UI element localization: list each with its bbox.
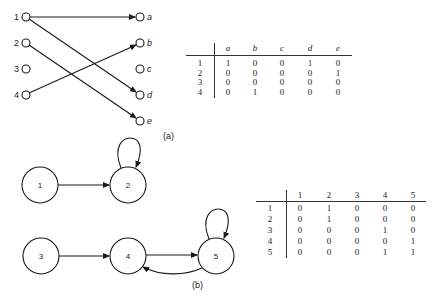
node-2-label: 2 <box>126 181 130 190</box>
table-a-cell: 0 <box>336 77 341 87</box>
caption-a: (a) <box>163 131 174 141</box>
node-right-a <box>136 13 144 21</box>
node-right-e <box>136 117 144 125</box>
table-a-cell: 0 <box>253 77 258 87</box>
node-left-4 <box>22 91 30 99</box>
table-a-row-label: 3 <box>198 77 203 87</box>
node-1-label: 1 <box>38 181 42 190</box>
table-a-cell: 0 <box>280 58 285 68</box>
node-left-1-label: 1 <box>14 12 19 22</box>
table-b-cell: 0 <box>327 225 332 235</box>
table-a-cell: 0 <box>336 87 341 97</box>
table-b-cell: 0 <box>355 214 360 224</box>
table-a-cell: 0 <box>308 87 313 97</box>
table-b-cell: 0 <box>383 214 388 224</box>
table-b-cell: 0 <box>298 236 303 246</box>
table-b-row-label: 2 <box>268 214 273 224</box>
edge-5-4 <box>143 267 202 274</box>
table-b-col-header: 4 <box>383 190 388 200</box>
table-b-row-rule <box>286 190 287 258</box>
node-left-2 <box>22 39 30 47</box>
table-a-col-header: d <box>308 43 313 53</box>
table-a-cell: 0 <box>226 77 231 87</box>
table-a-row-label: 1 <box>198 58 203 68</box>
node-left-3-label: 3 <box>14 64 19 74</box>
node-right-b-label: b <box>147 38 152 48</box>
table-b-cell: 1 <box>327 214 332 224</box>
table-a-col-header: b <box>253 43 258 53</box>
node-4-label: 4 <box>126 252 130 261</box>
node-left-2-label: 2 <box>14 38 19 48</box>
table-a-cell: 1 <box>253 87 258 97</box>
table-b-row-label: 4 <box>268 236 273 246</box>
table-b-cell: 0 <box>298 247 303 257</box>
table-b-row-label: 3 <box>268 225 273 235</box>
table-a-cell: 0 <box>226 87 231 97</box>
table-b-cell: 0 <box>355 203 360 213</box>
table-a-cell: 0 <box>253 58 258 68</box>
table-b-cell: 0 <box>411 203 416 213</box>
table-a-cell: 1 <box>226 58 231 68</box>
table-a-col-header: a <box>226 43 231 53</box>
table-b-header-rule <box>256 201 426 202</box>
table-b-cell: 0 <box>355 247 360 257</box>
table-b-col-header: 1 <box>298 190 303 200</box>
table-a-cell: 0 <box>308 77 313 87</box>
table-a-col-header: e <box>336 43 340 53</box>
table-b-row-label: 1 <box>268 203 273 213</box>
table-b-col-header: 3 <box>355 190 360 200</box>
table-b-cell: 0 <box>411 214 416 224</box>
table-a-cell: 1 <box>308 58 313 68</box>
self-loop-5 <box>206 209 228 239</box>
node-right-d <box>136 91 144 99</box>
table-a-row-label: 4 <box>198 87 203 97</box>
table-b-cell: 0 <box>411 225 416 235</box>
table-b-row-label: 5 <box>268 247 273 257</box>
table-a-cell: 0 <box>280 87 285 97</box>
table-b-cell: 1 <box>383 225 388 235</box>
table-b-cell: 0 <box>298 225 303 235</box>
node-left-3 <box>22 65 30 73</box>
table-b-col-header: 5 <box>411 190 416 200</box>
node-right-a-label: a <box>147 12 152 22</box>
node-right-d-label: d <box>147 90 152 100</box>
node-right-b <box>136 39 144 47</box>
table-b-cell: 0 <box>298 203 303 213</box>
node-left-1 <box>22 13 30 21</box>
table-b-col-header: 2 <box>327 190 332 200</box>
edge-4-b <box>29 45 136 93</box>
table-b-cell: 0 <box>327 247 332 257</box>
node-right-c <box>136 65 144 73</box>
table-a-header-rule <box>186 55 352 56</box>
node-right-c-label: c <box>147 64 152 74</box>
node-3-label: 3 <box>39 252 43 261</box>
table-a-col-header: c <box>280 43 284 53</box>
diagram-canvas <box>0 0 447 302</box>
table-b-cell: 0 <box>298 214 303 224</box>
table-b-cell: 0 <box>383 203 388 213</box>
bipartite-graph <box>22 13 144 125</box>
table-a-row-rule <box>214 43 215 98</box>
table-a-cell: 0 <box>280 77 285 87</box>
table-b-cell: 0 <box>383 236 388 246</box>
node-right-e-label: e <box>147 116 152 126</box>
table-b-cell: 0 <box>355 225 360 235</box>
table-b-cell: 1 <box>411 236 416 246</box>
table-b-cell: 0 <box>327 236 332 246</box>
table-b-cell: 1 <box>383 247 388 257</box>
self-loop-2 <box>118 138 140 168</box>
node-5-label: 5 <box>214 252 218 261</box>
node-left-4-label: 4 <box>14 90 19 100</box>
table-b-cell: 1 <box>327 203 332 213</box>
table-a-cell: 0 <box>336 58 341 68</box>
table-b-cell: 0 <box>355 236 360 246</box>
caption-b: (b) <box>192 280 203 290</box>
table-b-cell: 1 <box>411 247 416 257</box>
